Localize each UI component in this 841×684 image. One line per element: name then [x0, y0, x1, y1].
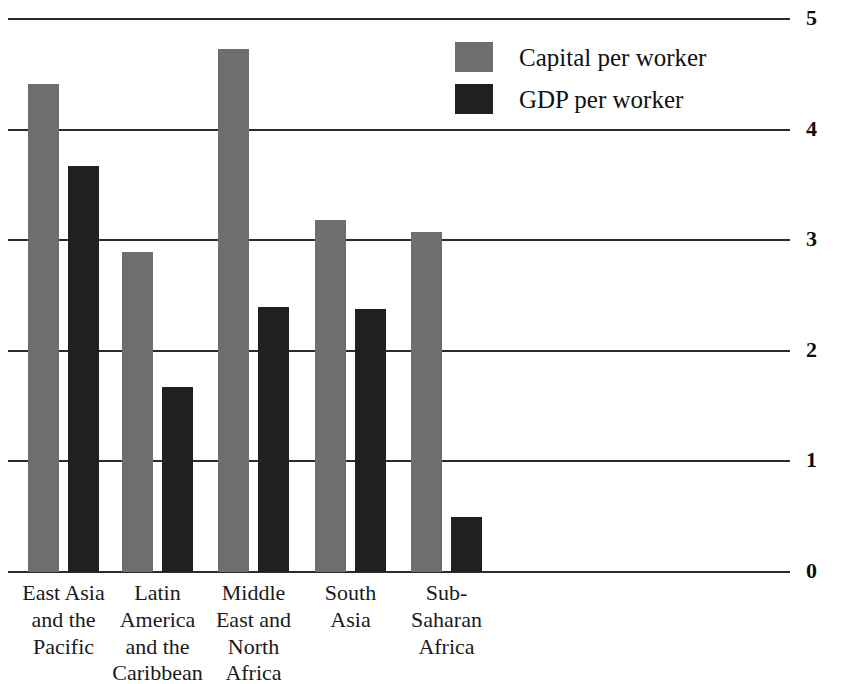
x-category-label-line: North — [174, 634, 334, 661]
y-tick-label-5: 5 — [806, 7, 836, 29]
bar-capital-0 — [28, 84, 59, 572]
x-category-label-line: Sub- — [367, 580, 527, 607]
legend-label-capital: Capital per worker — [519, 45, 706, 70]
y-tick-label-1: 1 — [806, 449, 836, 471]
y-tick-label-3: 3 — [806, 228, 836, 250]
x-category-label-line: Africa — [367, 634, 527, 661]
bar-gdp-3 — [355, 309, 386, 572]
bar-gdp-1 — [162, 387, 193, 572]
legend: Capital per worker GDP per worker — [455, 38, 755, 122]
bar-gdp-2 — [258, 307, 289, 572]
y-tick-label-0: 0 — [806, 560, 836, 582]
x-axis-category-labels: East Asiaand thePacificLatinAmericaand t… — [0, 580, 790, 678]
legend-label-gdp: GDP per worker — [519, 87, 683, 112]
bar-gdp-0 — [68, 166, 99, 572]
bar-capital-2 — [218, 49, 249, 572]
bar-capital-3 — [315, 220, 346, 572]
bar-gdp-4 — [451, 517, 482, 572]
bar-capital-1 — [122, 252, 153, 572]
bar-capital-4 — [411, 232, 442, 572]
legend-swatch-capital-icon — [455, 42, 493, 72]
x-category-label-line: Saharan — [367, 607, 527, 634]
x-category-label-line: Africa — [174, 660, 334, 684]
y-tick-label-4: 4 — [806, 118, 836, 140]
y-tick-label-2: 2 — [806, 339, 836, 361]
legend-item-gdp: GDP per worker — [455, 80, 755, 118]
x-category-label-4: Sub-SaharanAfrica — [367, 580, 527, 660]
legend-item-capital: Capital per worker — [455, 38, 755, 76]
legend-swatch-gdp-icon — [455, 84, 493, 114]
